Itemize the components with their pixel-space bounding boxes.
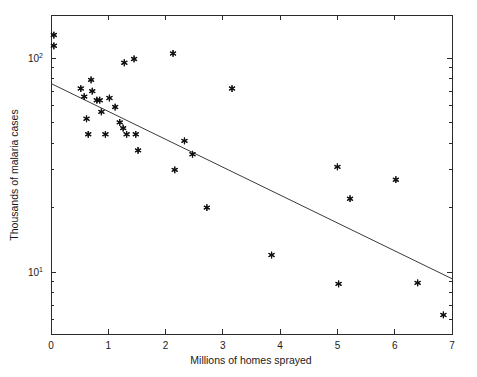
- data-point: [85, 131, 91, 138]
- data-point: [336, 280, 342, 287]
- data-point: [102, 131, 108, 138]
- x-axis-ticks: [51, 15, 452, 334]
- x-tick-label: 3: [220, 340, 226, 351]
- y-axis-label: Thousands of malaria cases: [8, 109, 20, 240]
- data-point: [124, 131, 130, 138]
- data-point: [88, 77, 94, 84]
- data-point: [84, 115, 90, 122]
- plot-frame: [51, 15, 452, 334]
- data-point: [78, 85, 84, 92]
- data-point: [204, 204, 210, 211]
- data-point: [120, 125, 126, 132]
- x-tick-label: 7: [449, 340, 455, 351]
- trend-line: [51, 84, 452, 279]
- data-point: [170, 50, 176, 57]
- data-point: [229, 85, 235, 92]
- data-point: [440, 312, 446, 319]
- data-point: [131, 56, 137, 63]
- data-point: [269, 252, 275, 259]
- data-point: [135, 147, 141, 154]
- data-points: [51, 32, 446, 319]
- data-point: [112, 104, 118, 111]
- data-point: [182, 137, 188, 144]
- y-tick-label: 102: [28, 52, 43, 64]
- x-tick-label: 1: [106, 340, 112, 351]
- x-tick-label: 4: [277, 340, 283, 351]
- data-point: [117, 119, 123, 126]
- data-point: [347, 195, 353, 202]
- x-axis-tick-labels: 01234567: [48, 340, 455, 351]
- scatter-plot-figure: 01234567 101102 Millions of homes spraye…: [0, 0, 477, 377]
- x-axis-label: Millions of homes sprayed: [190, 354, 312, 366]
- regression-line: [51, 84, 452, 279]
- data-point: [334, 163, 340, 170]
- y-axis-tick-labels: 101102: [28, 52, 43, 278]
- x-tick-label: 5: [335, 340, 341, 351]
- plot-canvas: 01234567 101102 Millions of homes spraye…: [0, 0, 477, 377]
- data-point: [121, 59, 127, 66]
- x-tick-label: 0: [48, 340, 54, 351]
- data-point: [51, 42, 57, 49]
- data-point: [133, 131, 139, 138]
- x-tick-label: 2: [163, 340, 169, 351]
- x-tick-label: 6: [392, 340, 398, 351]
- data-point: [172, 167, 178, 174]
- data-point: [106, 95, 112, 102]
- data-point: [393, 176, 399, 183]
- data-point: [89, 88, 95, 95]
- data-point: [51, 32, 57, 39]
- data-point: [415, 279, 421, 286]
- y-tick-label: 101: [28, 266, 43, 278]
